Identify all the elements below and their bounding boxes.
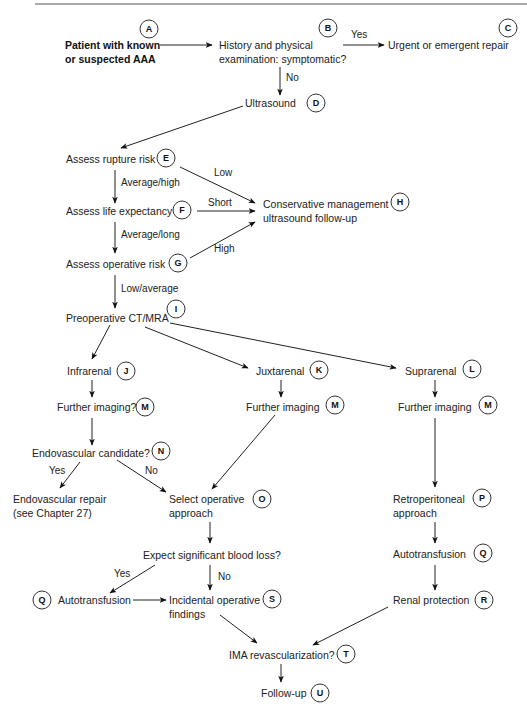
svg-text:R: R xyxy=(481,595,488,605)
node-h-text-line2: ultrasound follow-up xyxy=(263,212,357,224)
svg-text:K: K xyxy=(316,365,323,375)
node-b-text-line2: examination: symptomatic? xyxy=(219,53,346,65)
node-g-text: Assess operative risk xyxy=(66,258,166,270)
arrow-s-to-t xyxy=(220,615,257,643)
badge-b: B xyxy=(319,19,337,37)
node-o-text-line1: Select operative xyxy=(169,493,244,505)
badge-i: I xyxy=(167,300,185,318)
node-s-text-line2: findings xyxy=(169,608,205,620)
edge-label-yes: Yes xyxy=(49,465,65,476)
node-evr-text-line1: Endovascular repair xyxy=(13,493,107,505)
node-d-text: Ultrasound xyxy=(245,97,296,109)
node-r-text: Renal protection xyxy=(393,594,470,606)
badge-q2: Q xyxy=(474,544,492,562)
node-o-text-line2: approach xyxy=(169,507,213,519)
badge-a: A xyxy=(140,20,158,38)
svg-text:F: F xyxy=(179,205,185,215)
node-i-text: Preoperative CT/MRA xyxy=(66,312,169,324)
badge-t: T xyxy=(337,645,355,663)
badge-o: O xyxy=(253,490,271,508)
badge-j: J xyxy=(117,362,135,380)
node-a-text-line2: or suspected AAA xyxy=(65,53,156,65)
svg-text:M: M xyxy=(484,400,492,410)
edge-label-average-long: Average/long xyxy=(121,229,180,240)
node-blood-loss-text: Expect significant blood loss? xyxy=(143,549,281,561)
arrow-d-to-e xyxy=(121,106,243,148)
badge-u: U xyxy=(311,684,329,702)
arrow-i-to-k xyxy=(145,327,248,368)
svg-text:E: E xyxy=(163,153,169,163)
node-j-text: Infrarenal xyxy=(67,365,111,377)
svg-text:H: H xyxy=(397,197,404,207)
edge-label-high: High xyxy=(214,243,235,254)
badge-h: H xyxy=(391,193,409,211)
badge-f: F xyxy=(173,201,191,219)
svg-text:Q: Q xyxy=(479,548,486,558)
node-m1-text: Further imaging? xyxy=(57,401,137,413)
node-a-text-line1: Patient with known xyxy=(65,39,160,51)
edge-label-average-high: Average/high xyxy=(121,177,180,188)
node-texts: Patient with known or suspected AAA Hist… xyxy=(13,39,509,699)
badge-d: D xyxy=(307,94,325,112)
edge-label-no: No xyxy=(145,465,158,476)
svg-text:G: G xyxy=(174,258,181,268)
edge-label-short: Short xyxy=(208,197,232,208)
svg-text:N: N xyxy=(158,446,165,456)
node-s-text-line1: Incidental operative xyxy=(169,594,260,606)
badge-q1: Q xyxy=(33,591,51,609)
badge-k: K xyxy=(310,361,328,379)
badge-m3: M xyxy=(479,396,497,414)
arrow-m2-to-o xyxy=(212,415,275,489)
badge-l: L xyxy=(463,360,481,378)
node-m2-text: Further imaging xyxy=(246,401,320,413)
node-c-text: Urgent or emergent repair xyxy=(388,39,509,51)
badge-e: E xyxy=(157,149,175,167)
edge-label-yes: Yes xyxy=(351,29,367,40)
svg-text:U: U xyxy=(317,688,324,698)
node-m3-text: Further imaging xyxy=(398,401,472,413)
node-n-text: Endovascular candidate? xyxy=(32,447,150,459)
node-evr-text-line2: (see Chapter 27) xyxy=(13,507,92,519)
arrow-i-to-j xyxy=(92,325,110,359)
svg-text:S: S xyxy=(269,594,275,604)
edge-label-no: No xyxy=(286,72,299,83)
badge-s: S xyxy=(263,590,281,608)
svg-text:C: C xyxy=(505,23,512,33)
node-q2-text: Autotransfusion xyxy=(393,548,466,560)
badge-n: N xyxy=(152,442,170,460)
svg-text:B: B xyxy=(325,23,332,33)
edge-label-low: Low xyxy=(214,167,233,178)
node-p-text-line2: approach xyxy=(393,507,437,519)
node-l-text: Suprarenal xyxy=(405,365,456,377)
node-u-text: Follow-up xyxy=(261,687,307,699)
svg-text:O: O xyxy=(258,494,265,504)
svg-text:M: M xyxy=(141,402,149,412)
badge-c: C xyxy=(499,19,517,37)
arrow-n-to-o xyxy=(117,460,166,492)
svg-text:T: T xyxy=(343,649,349,659)
edge-label-low-average: Low/average xyxy=(121,283,179,294)
svg-text:D: D xyxy=(313,98,320,108)
node-t-text: IMA revascularization? xyxy=(229,649,335,661)
node-h-text-line1: Conservative management xyxy=(263,198,389,210)
arrow-r-to-t xyxy=(313,607,388,645)
arrow-i-to-l xyxy=(170,323,396,368)
badge-g: G xyxy=(169,254,187,272)
node-e-text: Assess rupture risk xyxy=(66,153,156,165)
svg-text:A: A xyxy=(146,24,153,34)
svg-text:J: J xyxy=(123,366,128,376)
aaa-management-flowchart: Yes No Low Average/high Short Average/lo… xyxy=(0,0,527,723)
edges xyxy=(60,45,435,682)
svg-text:I: I xyxy=(175,304,178,314)
svg-text:P: P xyxy=(479,493,485,503)
edge-label-yes: Yes xyxy=(114,568,130,579)
badge-p: P xyxy=(473,489,491,507)
svg-text:Q: Q xyxy=(38,595,45,605)
badge-m2: M xyxy=(326,396,344,414)
badge-m1: M xyxy=(136,398,154,416)
svg-text:L: L xyxy=(469,364,475,374)
svg-text:M: M xyxy=(331,400,339,410)
node-b-text-line1: History and physical xyxy=(219,39,313,51)
node-q1-text: Autotransfusion xyxy=(58,594,131,606)
badge-r: R xyxy=(475,591,493,609)
